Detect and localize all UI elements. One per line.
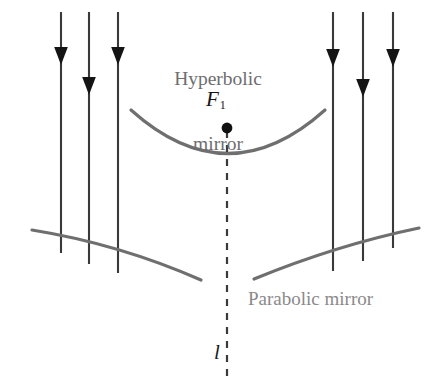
optics-diagram-figure: Hyperbolic mirror F1 Parabolic mirror l <box>0 0 436 382</box>
focus-subscript: 1 <box>220 98 226 112</box>
parabolic-mirror-right-segment <box>254 228 419 279</box>
focus-point-label: F1 <box>206 88 225 112</box>
focus-letter: F <box>206 87 219 111</box>
hyperbolic-mirror-label-line2: mirror <box>0 133 436 155</box>
parabolic-mirror-label: Parabolic mirror <box>248 288 373 309</box>
optical-axis-label: l <box>214 341 220 365</box>
parabolic-mirror-left-segment <box>32 230 201 280</box>
